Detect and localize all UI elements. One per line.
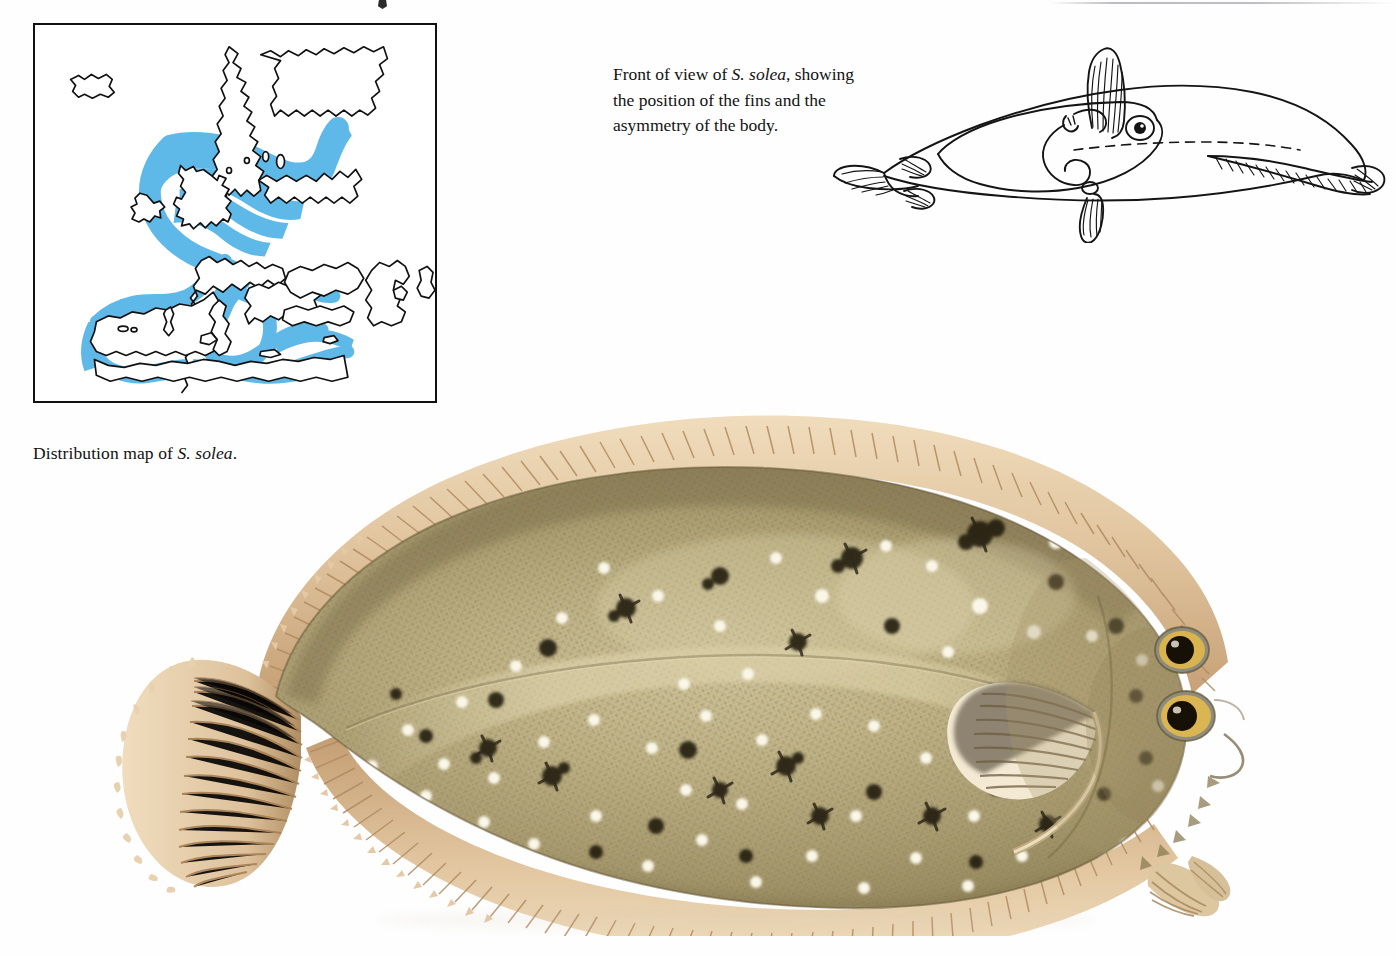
scan-artifact-line <box>1050 2 1395 4</box>
front-caption-line2: the position of the fins and the <box>613 90 826 110</box>
upper-eye-pupil <box>1134 122 1146 134</box>
main-fish-svg <box>96 296 1392 936</box>
front-caption-part1: Front of view of <box>613 64 732 84</box>
caudal-fin <box>114 657 302 893</box>
lower-eye <box>1157 691 1215 741</box>
plate-page: Distribution map of S. solea. Front of v… <box>0 0 1395 958</box>
mouth-line <box>1074 142 1300 150</box>
pelvic-fin <box>1148 856 1231 916</box>
front-caption-line3: asymmetry of the body. <box>613 115 778 135</box>
eye-socket-hatching <box>1068 116 1075 125</box>
left-pectoral-rays <box>902 159 926 176</box>
front-caption-species: S. solea <box>732 64 786 84</box>
mouth-line <box>1210 734 1243 778</box>
nostril-icon <box>1082 182 1098 194</box>
main-fish-illustration <box>96 296 1392 936</box>
snout-line <box>1214 700 1244 720</box>
front-view-line-drawing <box>812 28 1387 243</box>
ground-shadow <box>376 908 1096 932</box>
cheek-outline <box>1043 125 1090 185</box>
upper-eye-glint <box>1140 124 1144 128</box>
upper-eye <box>1155 627 1209 673</box>
front-view-svg <box>812 28 1387 243</box>
scan-artifact-speck <box>378 0 387 9</box>
left-pelvic-rays <box>906 191 930 207</box>
